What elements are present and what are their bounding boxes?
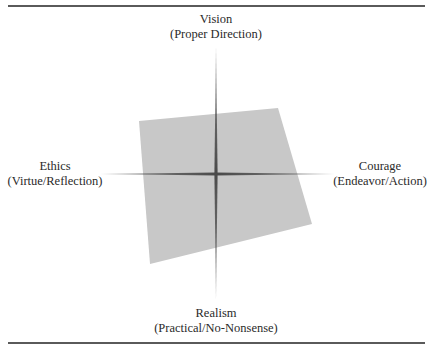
bottom-rule — [8, 342, 425, 344]
axis-title: Realism — [136, 306, 296, 321]
axis-label-vision: Vision (Proper Direction) — [166, 12, 266, 42]
axis-title: Vision — [166, 12, 266, 27]
axis-title: Courage — [326, 159, 433, 174]
axis-label-courage: Courage (Endeavor/Action) — [326, 159, 433, 189]
axis-label-realism: Realism (Practical/No-Nonsense) — [136, 306, 296, 336]
axis-title: Ethics — [2, 159, 108, 174]
profile-polygon — [139, 108, 312, 264]
axis-label-ethics: Ethics (Virtue/Reflection) — [2, 159, 108, 189]
vertical-axis — [214, 46, 217, 300]
axis-subtitle: (Virtue/Reflection) — [2, 174, 108, 189]
axis-subtitle: (Endeavor/Action) — [326, 174, 433, 189]
axis-subtitle: (Proper Direction) — [166, 27, 266, 42]
axis-subtitle: (Practical/No-Nonsense) — [136, 321, 296, 336]
